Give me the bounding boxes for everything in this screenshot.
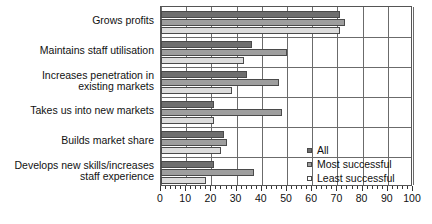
x-tick-minor (281, 186, 282, 189)
x-tick-major (210, 186, 211, 191)
x-tick-minor (195, 186, 196, 189)
x-tick-minor (326, 186, 327, 189)
x-tick-major (412, 186, 413, 191)
x-tick-label: 90 (381, 192, 393, 204)
x-tick-minor (170, 186, 171, 189)
category-label: Maintains staff utilisation (0, 45, 154, 57)
bar (161, 87, 232, 94)
x-tick-minor (190, 186, 191, 189)
x-tick-major (160, 186, 161, 191)
x-tick-major (286, 186, 287, 191)
x-tick-major (362, 186, 363, 191)
x-tick-minor (321, 186, 322, 189)
chart-legend: All Most successful Least successful (305, 142, 397, 186)
x-tick-major (387, 186, 388, 191)
x-tick-minor (372, 186, 373, 189)
x-tick-label: 0 (157, 192, 163, 204)
category-label: Builds market share (0, 135, 154, 147)
category-axis-labels: Grows profitsMaintains staff utilisation… (0, 0, 158, 186)
x-tick-minor (306, 186, 307, 189)
legend-swatch-all (307, 148, 312, 153)
bar (161, 19, 345, 26)
bar (161, 117, 214, 124)
x-tick-minor (296, 186, 297, 189)
x-tick-minor (231, 186, 232, 189)
legend-item: All (307, 143, 395, 157)
bar-group (161, 97, 411, 127)
bar (161, 41, 252, 48)
x-tick-major (311, 186, 312, 191)
bar-group (161, 37, 411, 67)
legend-swatch-least-successful (307, 176, 312, 181)
x-tick-minor (271, 186, 272, 189)
bar (161, 169, 254, 176)
x-tick-label: 20 (205, 192, 217, 204)
category-label: Increases penetration in existing market… (0, 70, 154, 93)
bar (161, 49, 287, 56)
x-tick-minor (241, 186, 242, 189)
bar (161, 109, 282, 116)
x-tick-label: 30 (230, 192, 242, 204)
x-tick-minor (352, 186, 353, 189)
x-tick-minor (200, 186, 201, 189)
x-tick-minor (377, 186, 378, 189)
bar (161, 147, 221, 154)
category-label: Grows profits (0, 15, 154, 27)
gridline-vertical (413, 7, 414, 185)
x-tick-label: 50 (280, 192, 292, 204)
x-tick-label: 70 (331, 192, 343, 204)
x-tick-major (336, 186, 337, 191)
x-tick-minor (226, 186, 227, 189)
x-tick-minor (220, 186, 221, 189)
x-tick-minor (175, 186, 176, 189)
x-tick-label: 60 (305, 192, 317, 204)
category-label: Develops new skills/increases staff expe… (0, 160, 154, 183)
x-tick-minor (246, 186, 247, 189)
bar (161, 177, 206, 184)
bar (161, 71, 247, 78)
bar (161, 139, 227, 146)
bar (161, 131, 224, 138)
x-tick-minor (276, 186, 277, 189)
bar (161, 79, 279, 86)
x-tick-minor (251, 186, 252, 189)
x-tick-label: 100 (403, 192, 421, 204)
x-tick-minor (402, 186, 403, 189)
legend-label-all: All (317, 144, 329, 156)
x-tick-minor (316, 186, 317, 189)
bar-chart: Grows profitsMaintains staff utilisation… (0, 0, 432, 224)
x-tick-minor (357, 186, 358, 189)
x-tick-minor (266, 186, 267, 189)
x-tick-minor (165, 186, 166, 189)
x-tick-label: 80 (356, 192, 368, 204)
legend-item: Least successful (307, 171, 395, 185)
x-tick-minor (407, 186, 408, 189)
x-tick-major (236, 186, 237, 191)
bar (161, 11, 340, 18)
x-tick-minor (382, 186, 383, 189)
legend-swatch-most-successful (307, 162, 312, 167)
bar (161, 57, 244, 64)
bar (161, 161, 214, 168)
x-tick-minor (301, 186, 302, 189)
x-tick-minor (256, 186, 257, 189)
x-tick-label: 10 (179, 192, 191, 204)
x-tick-minor (346, 186, 347, 189)
x-tick-minor (341, 186, 342, 189)
x-tick-label: 40 (255, 192, 267, 204)
x-tick-minor (397, 186, 398, 189)
bar-group (161, 67, 411, 97)
x-tick-minor (392, 186, 393, 189)
x-tick-minor (331, 186, 332, 189)
legend-item: Most successful (307, 157, 395, 171)
legend-label-least-successful: Least successful (317, 172, 395, 184)
x-tick-minor (367, 186, 368, 189)
bar (161, 101, 214, 108)
x-axis-tick-labels: 0102030405060708090100 (0, 192, 432, 208)
x-tick-minor (215, 186, 216, 189)
x-tick-minor (205, 186, 206, 189)
x-tick-minor (291, 186, 292, 189)
x-tick-major (261, 186, 262, 191)
bar (161, 27, 340, 34)
bar-group (161, 7, 411, 37)
